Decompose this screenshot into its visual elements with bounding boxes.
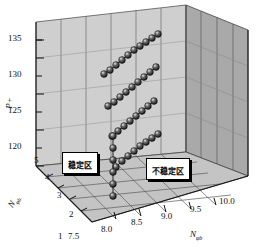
data-point-marker [113,62,120,69]
ztick-2: 2 [69,209,74,219]
data-point-marker [110,157,117,164]
data-point-marker [127,118,134,125]
vertical-axis-title: P+ [4,90,14,116]
xtick-8-5: 8.5 [131,217,142,227]
data-point-marker [131,47,138,54]
ytick-130: 130 [8,69,22,79]
data-point-marker [155,131,162,138]
xtick-8-0: 8.0 [101,224,112,234]
xtick-9-5: 9.5 [190,204,201,214]
right-wall [186,5,248,176]
xtick-9-0: 9.0 [161,211,172,221]
ytick-120: 120 [8,141,22,151]
data-point-marker [143,39,150,46]
data-point-marker [137,43,144,50]
data-point-marker [135,79,142,86]
data-point-marker [115,128,122,135]
data-point-marker [145,103,152,110]
data-point-marker [151,98,158,105]
data-point-marker [117,94,124,101]
data-point-marker [153,64,160,71]
data-point-marker [107,67,114,74]
horizontal-axis-title-sub: φb [196,235,202,241]
data-point-marker [147,69,154,76]
back-wall [36,5,186,166]
data-point-marker [110,133,117,140]
ztick-1: 1 [58,231,63,241]
data-point-marker [101,71,108,78]
annotation-stable-zone: 稳定区 [62,152,98,174]
vertical-axis-title-text: P+ [4,97,14,109]
data-point-marker [143,139,150,146]
annotation-unstable-zone: 不稳定区 [146,158,190,180]
ztick-5: 5 [34,155,39,165]
data-point-marker [119,57,126,64]
data-point-marker [139,108,146,115]
ztick-4: 4 [45,172,50,182]
data-point-marker [129,84,136,91]
data-point-marker [133,113,140,120]
annotation-unstable-zone-text: 不稳定区 [152,167,184,176]
xtick-10-0: 10.0 [219,196,235,206]
data-point-marker [125,52,132,59]
xtick-7-5: 7.5 [68,231,79,241]
data-point-marker [125,153,132,160]
data-point-marker [110,181,117,188]
data-point-marker [137,143,144,150]
horizontal-axis-title: Nφb [190,229,202,241]
data-point-marker [110,193,117,200]
annotation-stable-zone-text: 稳定区 [68,161,92,170]
figure-3d-scatter-plot: 135 130 125 120 P+ 5 4 3 2 1 Nφb 7.5 8.0… [0,0,259,252]
data-point-marker [111,99,118,106]
data-point-marker [131,148,138,155]
data-point-marker [149,135,156,142]
data-point-marker [155,31,162,38]
data-point-marker [141,74,148,81]
data-point-marker [105,103,112,110]
ytick-135: 135 [8,33,22,43]
plot-canvas [0,0,259,252]
data-point-marker [121,123,128,130]
data-point-marker [119,158,126,165]
ztick-3: 3 [57,190,62,200]
data-point-marker [123,89,130,96]
data-point-marker [149,35,156,42]
data-point-marker [110,169,117,176]
data-point-marker [110,145,117,152]
